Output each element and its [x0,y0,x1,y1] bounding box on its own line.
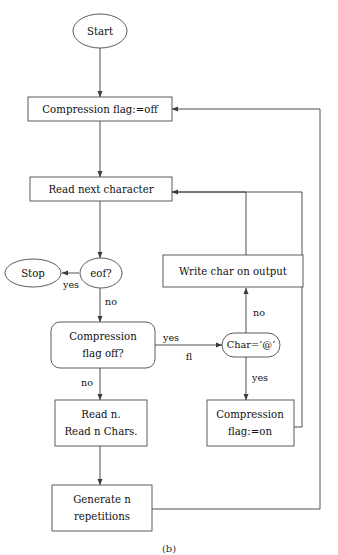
edge-label-char-yes: yes [251,372,268,383]
node-char-at-label: Char=‘@’ [227,339,276,350]
node-generate-n-repetitions [52,485,152,531]
edge-label-char-no: no [253,307,265,318]
flowchart-canvas: Start Compression flag:=off Read next ch… [0,0,338,555]
node-compression-flag-off-test-label-line1: Compression [69,331,137,342]
node-write-char-on-output-label: Write char on output [179,266,288,277]
node-read-next-character-label: Read next character [48,184,153,195]
node-compression-flag-on-label-line2: flag:=on [228,426,272,437]
flowchart-diagram: Start Compression flag:=off Read next ch… [0,0,338,555]
node-compression-flag-on-label-line1: Compression [216,409,284,420]
edge-write-char-to-read-next-character [172,192,246,255]
figure-caption: (b) [162,543,176,554]
edge-label-flagtest-yes: yes [162,332,179,343]
node-generate-n-label-line2: repetitions [74,511,130,522]
node-generate-n-label-line1: Generate n [73,494,131,505]
node-read-n [55,400,147,446]
edge-label-eof-yes: yes [62,279,79,290]
node-compression-flag-off-assign-label: Compression flag:=off [42,104,158,115]
edge-label-eof-no: no [105,296,117,307]
edge-generate-n-to-compression-flag-off [152,109,320,509]
edge-label-flagtest-fl: fl [186,351,193,362]
edge-label-flagtest-no: no [81,377,93,388]
node-eof-label: eof? [90,268,111,279]
node-start-label: Start [87,26,114,37]
node-compression-flag-on [207,400,294,446]
node-read-n-label-line2: Read n Chars. [64,426,137,437]
node-compression-flag-off-test [51,322,155,368]
node-compression-flag-off-test-label-line2: flag off? [82,348,123,359]
node-read-n-label-line1: Read n. [81,409,120,420]
edge-compression-flag-on-to-read-next-character [172,192,302,427]
node-stop-label: Stop [21,268,45,279]
